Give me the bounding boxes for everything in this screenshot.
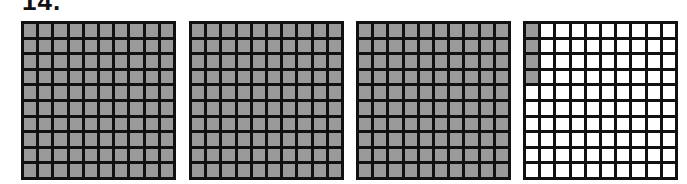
shaded-cell [268,149,280,162]
empty-cell [587,133,599,146]
shaded-cell [283,164,295,177]
shaded-cell [192,149,204,162]
shaded-cell [405,71,417,84]
empty-cell [526,118,538,131]
empty-cell [663,118,675,131]
shaded-cell [238,118,250,131]
shaded-cell [359,118,371,131]
shaded-cell [298,149,310,162]
shaded-cell [314,40,326,53]
problem-number: 14. [22,0,61,17]
shaded-cell [389,24,401,37]
shaded-cell [450,164,462,177]
shaded-cell [39,133,51,146]
shaded-cell [207,102,219,115]
empty-cell [663,133,675,146]
shaded-cell [85,24,97,37]
shaded-cell [374,55,386,68]
shaded-cell [146,164,158,177]
hundred-grid-4 [523,21,678,180]
empty-cell [572,133,584,146]
shaded-cell [39,86,51,99]
empty-cell [632,71,644,84]
shaded-cell [465,71,477,84]
empty-cell [617,118,629,131]
shaded-cell [238,102,250,115]
empty-cell [526,164,538,177]
shaded-cell [526,71,538,84]
shaded-cell [450,118,462,131]
shaded-cell [253,71,265,84]
empty-cell [617,86,629,99]
shaded-cell [268,40,280,53]
shaded-cell [238,149,250,162]
shaded-cell [359,164,371,177]
empty-cell [541,86,553,99]
empty-cell [648,118,660,131]
shaded-cell [222,40,234,53]
empty-cell [572,24,584,37]
hundred-grid-2 [189,21,344,180]
shaded-cell [359,133,371,146]
shaded-cell [268,55,280,68]
shaded-cell [450,24,462,37]
empty-cell [632,133,644,146]
shaded-cell [435,102,447,115]
shaded-cell [420,102,432,115]
shaded-cell [100,164,112,177]
shaded-cell [161,24,173,37]
shaded-cell [253,149,265,162]
shaded-cell [283,40,295,53]
empty-cell [541,24,553,37]
empty-cell [617,55,629,68]
empty-cell [526,86,538,99]
empty-cell [602,40,614,53]
shaded-cell [70,24,82,37]
shaded-cell [359,86,371,99]
empty-cell [602,71,614,84]
shaded-cell [481,133,493,146]
empty-cell [648,149,660,162]
shaded-cell [283,71,295,84]
empty-cell [526,149,538,162]
shaded-cell [268,118,280,131]
shaded-cell [496,55,508,68]
shaded-cell [359,71,371,84]
shaded-cell [359,24,371,37]
empty-cell [587,149,599,162]
shaded-cell [420,86,432,99]
empty-cell [541,40,553,53]
shaded-cell [100,118,112,131]
shaded-cell [329,55,341,68]
shaded-cell [54,71,66,84]
shaded-cell [283,86,295,99]
shaded-cell [192,118,204,131]
shaded-cell [268,164,280,177]
shaded-cell [146,40,158,53]
shaded-cell [526,55,538,68]
empty-cell [632,40,644,53]
shaded-cell [85,149,97,162]
shaded-cell [298,118,310,131]
empty-cell [556,24,568,37]
shaded-cell [85,86,97,99]
shaded-cell [238,40,250,53]
shaded-cell [253,86,265,99]
shaded-cell [329,71,341,84]
empty-cell [602,102,614,115]
empty-cell [632,118,644,131]
shaded-cell [283,55,295,68]
empty-cell [602,133,614,146]
shaded-cell [161,40,173,53]
shaded-cell [314,71,326,84]
empty-cell [556,102,568,115]
shaded-cell [329,102,341,115]
shaded-cell [100,24,112,37]
empty-cell [572,71,584,84]
empty-cell [632,102,644,115]
shaded-cell [130,118,142,131]
shaded-cell [420,55,432,68]
empty-cell [541,164,553,177]
shaded-cell [115,118,127,131]
shaded-cell [115,164,127,177]
